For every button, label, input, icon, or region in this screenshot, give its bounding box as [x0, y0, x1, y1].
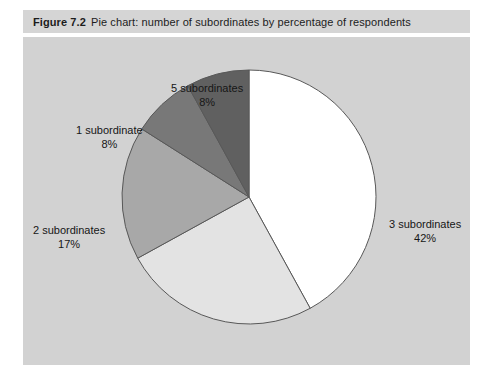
- figure-caption-text: Pie chart: number of subordinates by per…: [91, 16, 411, 28]
- pie-label-3-subordinates: 3 subordinates 42%: [389, 217, 461, 245]
- figure-number: Figure 7.2: [33, 16, 86, 28]
- pie-label-value: 8%: [76, 137, 143, 151]
- pie-label-5-subordinates: 5 subordinates 8%: [171, 81, 243, 109]
- pie-label-1-subordinate: 1 subordinate 8%: [76, 123, 143, 151]
- pie-label-name: 5 subordinates: [171, 81, 243, 95]
- figure-caption: Figure 7.2Pie chart: number of subordina…: [33, 16, 411, 28]
- pie-label-name: 4 subordinates: [156, 362, 228, 365]
- pie-slice-group: [122, 70, 376, 324]
- pie-label-name: 2 subordinates: [33, 223, 105, 237]
- pie-label-name: 1 subordinate: [76, 123, 143, 137]
- figure-container: Figure 7.2Pie chart: number of subordina…: [0, 0, 499, 381]
- pie-label-value: 17%: [33, 237, 105, 251]
- chart-panel: 5 subordinates 8% 1 subordinate 8% 2 sub…: [23, 37, 470, 365]
- pie-label-value: 42%: [389, 231, 461, 245]
- pie-label-value: 8%: [171, 95, 243, 109]
- pie-label-name: 3 subordinates: [389, 217, 461, 231]
- pie-chart: [23, 37, 470, 365]
- pie-label-2-subordinates: 2 subordinates 17%: [33, 223, 105, 251]
- pie-label-4-subordinates: 4 subordinates 25%: [156, 362, 228, 365]
- figure-caption-bar: Figure 7.2Pie chart: number of subordina…: [23, 10, 470, 33]
